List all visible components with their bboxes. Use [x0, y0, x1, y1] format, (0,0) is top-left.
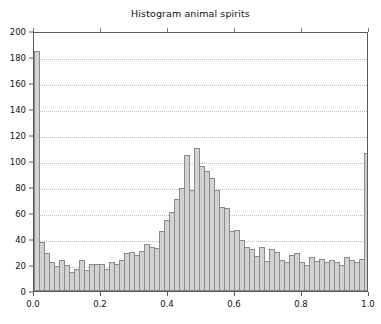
x-tick-label: 0.0 — [26, 299, 40, 309]
y-tick-label: 0 — [21, 287, 26, 297]
x-tick-label: 0.2 — [93, 299, 107, 309]
histogram-bar — [364, 153, 368, 291]
histogram-bars — [34, 33, 367, 291]
x-tick-mark — [33, 292, 34, 296]
y-tick-label: 180 — [10, 53, 26, 63]
y-tick-label: 120 — [10, 131, 26, 141]
top-tick-mark — [167, 28, 168, 32]
y-tick-label: 160 — [10, 79, 26, 89]
y-axis: 020406080100120140160180200 — [0, 32, 33, 292]
plot-area — [33, 32, 368, 292]
x-tick-label: 1.0 — [361, 299, 375, 309]
top-tick-mark — [100, 28, 101, 32]
x-tick-mark — [234, 292, 235, 296]
top-tick-mark — [368, 28, 369, 32]
top-tick-mark — [33, 28, 34, 32]
y-tick-label: 40 — [15, 235, 26, 245]
x-tick-label: 0.6 — [227, 299, 241, 309]
x-tick-mark — [368, 292, 369, 296]
x-axis: 0.00.20.40.60.81.0 — [33, 292, 368, 324]
y-tick-label: 60 — [15, 209, 26, 219]
x-tick-mark — [301, 292, 302, 296]
x-tick-mark — [167, 292, 168, 296]
y-tick-label: 20 — [15, 261, 26, 271]
x-tick-label: 0.8 — [294, 299, 308, 309]
y-tick-label: 80 — [15, 183, 26, 193]
top-tick-mark — [234, 28, 235, 32]
x-tick-label: 0.4 — [160, 299, 174, 309]
histogram-figure: Histogram animal spirits 020406080100120… — [0, 0, 381, 324]
x-tick-mark — [100, 292, 101, 296]
y-tick-label: 100 — [10, 157, 26, 167]
y-tick-label: 200 — [10, 27, 26, 37]
chart-title: Histogram animal spirits — [0, 8, 381, 19]
top-tick-mark — [301, 28, 302, 32]
y-tick-label: 140 — [10, 105, 26, 115]
